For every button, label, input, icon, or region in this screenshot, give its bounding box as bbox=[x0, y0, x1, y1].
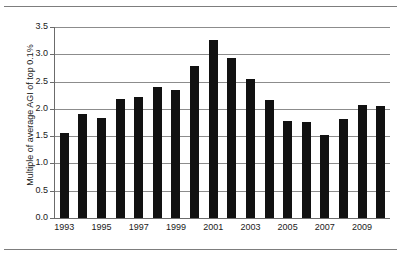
x-tick-label-2009: 2009 bbox=[352, 222, 372, 232]
bar-1999 bbox=[171, 90, 180, 218]
gridline-0.0 bbox=[55, 218, 390, 219]
bar-1997 bbox=[134, 97, 143, 218]
x-tick-label-2001: 2001 bbox=[203, 222, 223, 232]
bar-2002 bbox=[227, 58, 236, 218]
bar-2004 bbox=[265, 100, 274, 218]
bar-2000 bbox=[190, 66, 199, 218]
bottom-horizontal-rule bbox=[4, 249, 397, 250]
bar-1993 bbox=[60, 133, 69, 218]
bar-2003 bbox=[246, 79, 255, 218]
bar-2001 bbox=[209, 40, 218, 218]
bar-2008 bbox=[339, 119, 348, 218]
bar-2009 bbox=[358, 105, 367, 219]
top-horizontal-rule bbox=[4, 6, 397, 7]
bar-1996 bbox=[116, 99, 125, 219]
bar-2005 bbox=[283, 121, 292, 218]
y-tick-label: 2.5 bbox=[8, 77, 48, 86]
x-tick-label-1999: 1999 bbox=[166, 222, 186, 232]
bar-chart: Multiple of average AGI of top 0.1% 0.00… bbox=[0, 14, 401, 246]
y-tick-label: 1.5 bbox=[8, 131, 48, 140]
bar-1998 bbox=[153, 87, 162, 218]
plot-area bbox=[55, 27, 390, 218]
figure-container: Multiple of average AGI of top 0.1% 0.00… bbox=[0, 0, 401, 258]
bar-2010 bbox=[376, 106, 385, 218]
bar-1995 bbox=[97, 118, 106, 218]
y-tick-label: 2.0 bbox=[8, 104, 48, 113]
x-tick-label-1995: 1995 bbox=[92, 222, 112, 232]
bar-2007 bbox=[320, 135, 329, 218]
y-tick-label: 3.0 bbox=[8, 49, 48, 58]
x-tick-label-2003: 2003 bbox=[240, 222, 260, 232]
y-tick-label: 1.0 bbox=[8, 158, 48, 167]
y-tick-label: 0.0 bbox=[8, 213, 48, 222]
x-tick-label-2007: 2007 bbox=[315, 222, 335, 232]
y-tick-label: 0.5 bbox=[8, 186, 48, 195]
x-tick-label-2005: 2005 bbox=[278, 222, 298, 232]
x-tick-label-1997: 1997 bbox=[129, 222, 149, 232]
x-tick-label-1993: 1993 bbox=[54, 222, 74, 232]
y-tick-label: 3.5 bbox=[8, 22, 48, 31]
bars-group bbox=[55, 27, 390, 218]
bar-2006 bbox=[302, 122, 311, 218]
bar-1994 bbox=[78, 114, 87, 218]
